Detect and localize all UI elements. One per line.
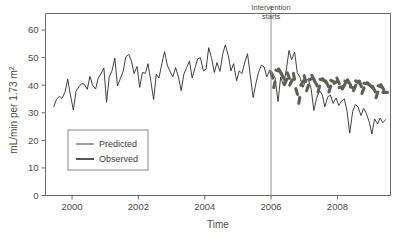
y-tick-label: 10	[28, 162, 39, 173]
predicted-segment	[334, 82, 337, 84]
predicted-segment	[353, 85, 355, 90]
predicted-segment	[293, 73, 294, 79]
y-axis-title-superscript: 2	[8, 66, 15, 70]
x-axis-title: Time	[207, 219, 229, 230]
predicted-segment	[285, 79, 287, 85]
predicted-segment	[296, 89, 298, 95]
legend-label-predicted: Predicted	[99, 139, 137, 149]
legend-label-observed: Observed	[99, 154, 138, 164]
x-tick-label: 2004	[194, 201, 215, 212]
predicted-segment	[329, 86, 331, 92]
y-tick-label: 20	[28, 135, 39, 146]
y-axis-title: mL/min per 1.73 m2	[8, 66, 19, 153]
predicted-segment	[331, 80, 334, 82]
x-tick-label: 2002	[128, 201, 149, 212]
x-tick-label: 2000	[61, 201, 82, 212]
predicted-segment	[337, 78, 339, 84]
predicted-segment	[287, 73, 289, 79]
y-tick-label: 50	[28, 52, 39, 63]
x-tick-label: 2006	[261, 201, 282, 212]
chart-figure: 0102030405060 20002002200420062008 Inter…	[0, 0, 402, 239]
y-tick-label: 30	[28, 107, 39, 118]
y-tick-label: 40	[28, 80, 39, 91]
svg-text:mL/min per 1.73 m2: mL/min per 1.73 m2	[8, 66, 19, 153]
predicted-segment	[304, 76, 306, 82]
predicted-segment	[309, 79, 312, 80]
x-tick-label: 2008	[327, 201, 348, 212]
y-tick-label: 60	[28, 24, 39, 35]
predicted-segment	[307, 85, 309, 91]
predicted-segment	[274, 82, 275, 88]
interrupted-time-series-chart: 0102030405060 20002002200420062008 Inter…	[0, 0, 402, 239]
predicted-segment	[299, 97, 300, 103]
predicted-segment	[376, 92, 378, 98]
predicted-segment	[359, 81, 361, 87]
y-tick-label: 0	[33, 190, 38, 201]
predicted-segment	[362, 88, 364, 94]
intervention-label-line2: starts	[262, 12, 281, 21]
y-axis-title-main: mL/min per 1.73 m	[8, 70, 19, 153]
predicted-segment	[351, 87, 354, 88]
predicted-segment	[318, 86, 320, 92]
